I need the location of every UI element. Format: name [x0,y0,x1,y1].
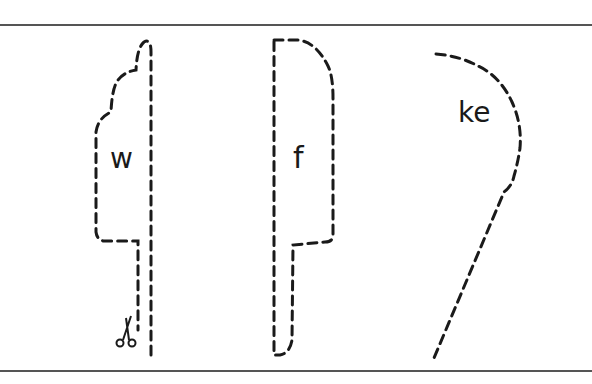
piece-w-outline[interactable] [96,41,151,355]
piece-ke-label: ke [458,96,490,129]
piece-f-outline[interactable] [274,40,333,355]
piece-w-label: w [110,142,133,175]
cutout-shapes [0,0,592,384]
piece-f-label: f [293,140,304,175]
scissors-icon [114,310,144,350]
